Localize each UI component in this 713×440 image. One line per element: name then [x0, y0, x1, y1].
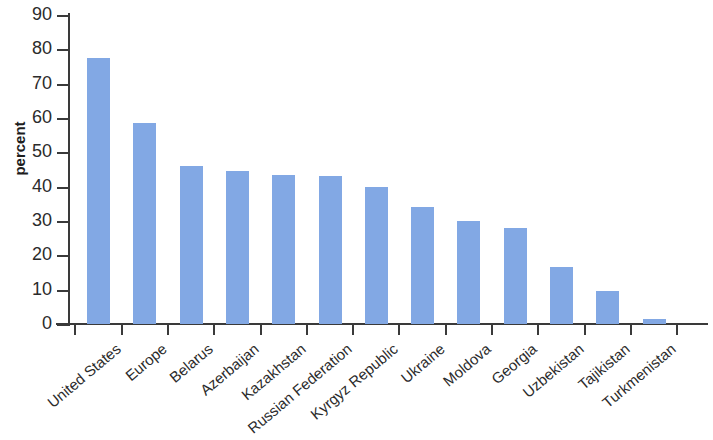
bar-chart: percent 0102030405060708090 United State…: [0, 0, 713, 440]
x-tick-mark: [630, 324, 632, 335]
y-tick-label: 30: [32, 210, 52, 230]
bar: [180, 166, 203, 324]
y-tick-label: 40: [32, 176, 52, 196]
y-tick-mark: 20: [57, 255, 68, 257]
bar: [504, 228, 527, 324]
x-tick-mark: [121, 324, 123, 335]
y-tick-mark: 70: [57, 84, 68, 86]
bar: [133, 123, 156, 324]
plot-area: 0102030405060708090: [68, 15, 706, 324]
x-axis-label: Ukraine: [397, 340, 448, 386]
x-tick-mark: [398, 324, 400, 335]
y-tick-label: 60: [32, 107, 52, 127]
y-tick-label: 0: [42, 313, 52, 333]
x-tick-mark: [74, 324, 76, 335]
y-tick-mark: 80: [57, 49, 68, 51]
y-tick-label: 10: [32, 279, 52, 299]
x-tick-mark: [260, 324, 262, 335]
x-tick-mark: [352, 324, 354, 335]
x-tick-mark: [537, 324, 539, 335]
y-tick-mark: 0: [57, 324, 68, 326]
x-axis-label-text: United States: [44, 340, 124, 411]
y-tick-mark: 30: [57, 221, 68, 223]
bar: [226, 171, 249, 324]
y-tick-mark: 40: [57, 187, 68, 189]
bar: [457, 221, 480, 324]
y-tick-label: 80: [32, 38, 52, 58]
x-tick-mark: [584, 324, 586, 335]
bar: [411, 207, 434, 324]
x-axis-label: Europe: [122, 340, 170, 384]
y-axis-label: percent: [11, 104, 28, 194]
x-axis-label-text: Ukraine: [397, 340, 448, 386]
x-tick-mark: [445, 324, 447, 335]
y-tick-mark: 50: [57, 152, 68, 154]
y-tick-label: 20: [32, 244, 52, 264]
bar: [643, 319, 666, 324]
y-tick-label: 90: [32, 4, 52, 24]
x-tick-mark: [306, 324, 308, 335]
x-axis-label: United States: [44, 340, 124, 411]
y-tick-label: 50: [32, 141, 52, 161]
x-axis-label-text: Moldova: [439, 340, 493, 389]
bar: [550, 267, 573, 324]
y-tick-label: 70: [32, 73, 52, 93]
x-tick-mark: [213, 324, 215, 335]
bar: [272, 175, 295, 324]
x-axis-label-text: Europe: [122, 340, 170, 384]
bar: [319, 176, 342, 324]
y-tick-mark: 10: [57, 290, 68, 292]
x-tick-mark: [491, 324, 493, 335]
bar: [87, 58, 110, 324]
y-tick-mark: 60: [57, 118, 68, 120]
x-tick-mark: [167, 324, 169, 335]
bar: [596, 291, 619, 324]
bar: [365, 187, 388, 324]
x-axis-label: Moldova: [439, 340, 493, 389]
x-tick-mark: [676, 324, 678, 335]
y-tick-mark: 90: [57, 15, 68, 17]
